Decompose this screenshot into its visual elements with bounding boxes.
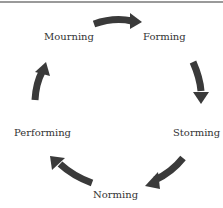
cycle-arrows [0, 0, 223, 208]
arrow-norming-to-performing-icon [50, 156, 92, 183]
stage-label-forming: Forming [143, 31, 186, 42]
arrow-forming-to-storming-icon [193, 62, 209, 104]
stage-label-performing: Performing [14, 127, 71, 138]
stage-label-mourning: Mourning [44, 31, 94, 42]
arrow-storming-to-norming-icon [145, 158, 183, 189]
stage-label-storming: Storming [173, 127, 220, 138]
arrow-performing-to-mourning-icon [35, 62, 50, 100]
stage-label-norming: Norming [93, 189, 138, 200]
arrow-mourning-to-forming-icon [94, 13, 142, 29]
